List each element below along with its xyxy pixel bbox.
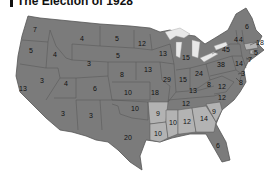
state-label-illinois: 29 [163,76,171,83]
state-label-wisconsin: 13 [159,50,167,57]
state-label-north-dakota: 5 [115,35,119,42]
state-label-delaware: 3 [241,70,245,77]
state-label-alabama: 12 [183,118,191,125]
state-label-kansas: 10 [124,89,132,96]
state-label-california: 13 [19,85,27,92]
state-label-kentucky: 13 [189,87,197,94]
state-label-vermont: 4 [234,36,238,43]
state-label-washington: 7 [33,26,37,33]
state-label-virginia: 12 [218,83,226,90]
state-label-missouri: 18 [151,89,159,96]
state-label-montana: 4 [80,35,84,42]
state-label-connecticut: 7 [248,56,252,63]
state-label-florida: 6 [216,142,220,149]
state-label-wyoming: 3 [87,60,91,67]
state-label-new-jersey: 14 [235,60,243,67]
state-label-west-virginia: 8 [207,81,211,88]
state-label-ohio: 24 [195,70,203,77]
state-label-arizona: 3 [61,110,65,117]
state-label-nebraska: 8 [120,71,124,78]
state-label-pennsylvania: 38 [217,61,225,68]
state-label-tennessee: 12 [182,100,190,107]
state-label-minnesota: 12 [138,40,146,47]
state-label-texas: 20 [124,134,132,141]
state-label-massachusetts: 18 [256,39,264,46]
state-label-oklahoma: 10 [131,105,139,112]
state-label-maryland: 8 [239,79,243,86]
us-map [0,0,270,179]
state-label-north-carolina: 12 [218,94,226,101]
state-label-georgia: 14 [200,115,208,122]
state-label-new-mexico: 3 [89,112,93,119]
state-label-michigan: 15 [182,54,190,61]
state-label-idaho: 4 [53,51,57,58]
state-label-rhode-island: 5 [254,49,258,56]
state-label-oregon: 5 [29,47,33,54]
state-label-south-carolina: 9 [212,108,216,115]
state-label-iowa: 13 [144,66,152,73]
state-label-utah: 4 [64,80,68,87]
state-label-louisiana: 10 [154,130,162,137]
state-label-mississippi: 10 [169,119,177,126]
state-label-indiana: 15 [179,76,187,83]
state-label-colorado: 6 [93,85,97,92]
state-label-maine: 6 [245,23,249,30]
state-label-new-hampshire: 4 [239,36,243,43]
state-label-new-york: 45 [222,46,230,53]
state-label-nevada: 3 [40,77,44,84]
state-label-arkansas: 9 [156,110,160,117]
state-label-south-dakota: 5 [116,52,120,59]
